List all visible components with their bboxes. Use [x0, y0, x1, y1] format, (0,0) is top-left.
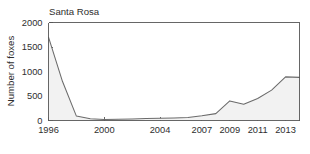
santa-rosa-area-chart: Santa Rosa Number of foxes 0500100015002…	[0, 0, 310, 154]
x-tick-label: 2009	[219, 125, 240, 135]
x-tick-label: 2000	[94, 125, 115, 135]
y-tick-label: 500	[27, 91, 43, 101]
x-tick-label: 2011	[248, 125, 268, 135]
chart-title: Santa Rosa	[49, 6, 100, 17]
x-tick-label: 2004	[150, 125, 171, 135]
y-tick-label: 1000	[22, 67, 43, 77]
y-tick-label: 1500	[22, 42, 43, 52]
y-axis-title: Number of foxes	[5, 36, 16, 107]
x-tick-label: 2007	[192, 125, 213, 135]
x-tick-label: 2013	[275, 125, 296, 135]
fox-population-chart-figure: Santa Rosa Number of foxes 0500100015002…	[0, 0, 310, 154]
x-tick-label: 1996	[38, 125, 59, 135]
y-tick-label: 2000	[22, 18, 43, 28]
